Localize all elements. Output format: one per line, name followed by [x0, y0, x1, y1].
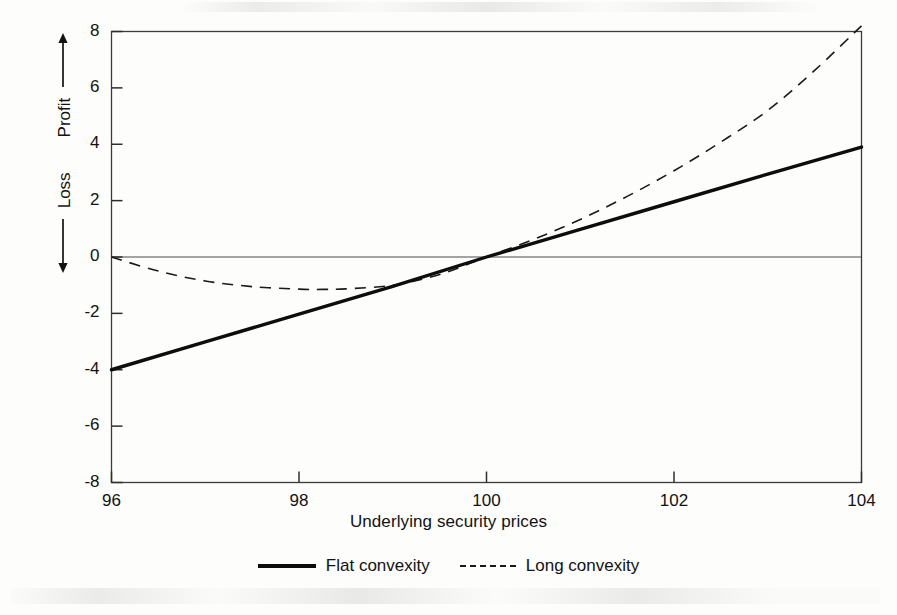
legend-entry: Long convexity: [460, 556, 639, 576]
y-tick-label: -6: [60, 415, 100, 435]
x-tick-label: 104: [832, 491, 892, 511]
convexity-chart: -8-6-4-202468 9698100102104 Loss Profit …: [0, 0, 897, 615]
y-tick-label: -2: [60, 302, 100, 322]
legend-label: Flat convexity: [326, 556, 430, 576]
legend-label: Long convexity: [526, 556, 639, 576]
x-tick-marks: [112, 472, 862, 483]
x-axis-title: Underlying security prices: [0, 512, 897, 532]
x-tick-label: 100: [457, 491, 517, 511]
legend-entry: Flat convexity: [258, 556, 430, 576]
y-tick-label: -8: [60, 472, 100, 492]
y-tick-label: -4: [60, 359, 100, 379]
x-tick-label: 96: [82, 491, 142, 511]
y-axis-title-profit: Profit: [55, 98, 75, 138]
chart-legend: Flat convexityLong convexity: [0, 556, 897, 576]
series-line-flat-convexity: [112, 147, 862, 370]
y-axis-title: Loss Profit: [35, 18, 95, 288]
legend-swatch-dashed-icon: [460, 565, 516, 567]
x-tick-label: 102: [644, 491, 704, 511]
y-axis-title-loss: Loss: [55, 172, 75, 208]
arrow-up-icon: [55, 33, 75, 89]
series-line-long-convexity: [112, 26, 862, 290]
arrow-down-icon: [55, 217, 75, 273]
legend-swatch-solid-icon: [258, 564, 316, 568]
x-tick-label: 98: [269, 491, 329, 511]
